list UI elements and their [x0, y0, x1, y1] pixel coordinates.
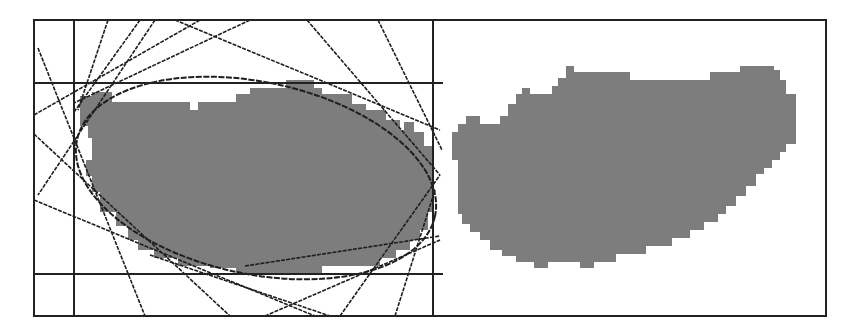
right-panel [452, 66, 796, 268]
two-panel-diagram [0, 0, 855, 331]
right-blob [452, 66, 796, 268]
left-panel [34, 20, 455, 316]
